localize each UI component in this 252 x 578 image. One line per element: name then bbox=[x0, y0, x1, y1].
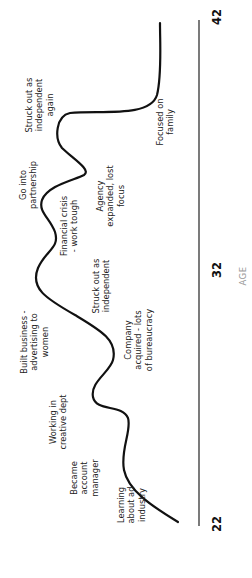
axis-tick-label: 42 bbox=[210, 9, 224, 25]
event-label: Agencyexpanded, lostfocus bbox=[95, 165, 126, 227]
axis-tick-label: 32 bbox=[210, 262, 224, 278]
event-label: Companyacquired - lotsof bureaucracy bbox=[123, 309, 154, 371]
event-label: Financial crisis- work tough bbox=[59, 196, 80, 256]
axis-tick-label: 22 bbox=[210, 516, 224, 532]
event-label: Built business -advertising towomen bbox=[19, 310, 50, 373]
axis-ticks: 223242 bbox=[210, 9, 224, 532]
event-label: Becameaccountmanager bbox=[69, 459, 100, 497]
event-label: Struck out asindependent bbox=[91, 259, 112, 314]
event-label: Focused onfamily bbox=[155, 98, 176, 145]
event-label: Go intopartnership bbox=[18, 161, 39, 209]
life-line-diagram: 223242 AGE Learningabout adindustryBecam… bbox=[0, 0, 252, 578]
event-labels: Learningabout adindustryBecameaccountman… bbox=[18, 78, 176, 524]
event-label: Struck out asindependentagain bbox=[24, 78, 55, 133]
event-label: Learningabout adindustry bbox=[116, 487, 147, 524]
event-label: Working increative dept bbox=[48, 394, 69, 450]
axis-title: AGE bbox=[238, 266, 248, 285]
